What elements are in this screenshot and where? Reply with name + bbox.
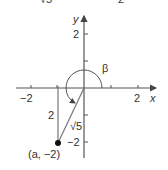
angle-beta-label: β <box>102 62 108 74</box>
x-tick-label-neg2: −2 <box>20 92 33 104</box>
coordinate-diagram: √5 2 −2 2 x 2 −2 y β 2 √5 (a, −2) <box>0 0 168 170</box>
hypotenuse-label: √5 <box>70 120 82 132</box>
top-fragment-left: √5 <box>40 0 52 5</box>
vertical-leg-label: 2 <box>48 109 54 121</box>
y-tick-label-2: 2 <box>73 28 79 40</box>
x-axis-label: x <box>149 92 156 104</box>
point-a-neg2 <box>55 140 61 146</box>
angle-continuation-arrow <box>66 88 75 103</box>
top-fragment-right: 2 <box>118 0 124 5</box>
triangle-hypotenuse <box>58 88 84 143</box>
y-axis-label: y <box>72 13 80 25</box>
point-label: (a, −2) <box>28 148 60 160</box>
y-tick-label-neg2: −2 <box>67 136 80 148</box>
x-tick-label-2: 2 <box>134 92 140 104</box>
